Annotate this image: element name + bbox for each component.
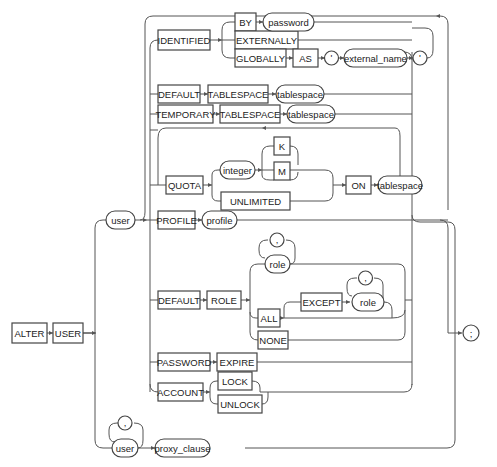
keyword-tablespace-2: TABLESPACE — [220, 105, 281, 123]
keyword-expire: EXPIRE — [217, 353, 257, 371]
svg-text:proxy_clause: proxy_clause — [155, 443, 211, 454]
svg-text:TEMPORARY: TEMPORARY — [155, 109, 216, 120]
keyword-unlock: UNLOCK — [218, 395, 262, 413]
variable-tablespace-default: tablespace — [276, 85, 324, 103]
svg-text:': ' — [331, 52, 333, 63]
svg-text:NONE: NONE — [259, 335, 286, 346]
svg-text:M: M — [278, 166, 286, 177]
svg-text:user: user — [116, 443, 134, 454]
svg-text:DEFAULT: DEFAULT — [158, 89, 200, 100]
keyword-user: USER — [53, 323, 83, 343]
variable-role-2: role — [352, 293, 384, 311]
variable-external-name: external_name — [344, 49, 407, 67]
keyword-password: PASSWORD — [157, 353, 212, 371]
variable-tablespace-temporary: tablespace — [287, 105, 335, 123]
svg-text:,: , — [124, 417, 127, 428]
svg-text:;: ; — [470, 328, 473, 339]
svg-text:ROLE: ROLE — [211, 295, 237, 306]
quote-close-symbol: ' — [413, 51, 427, 65]
svg-text:profile: profile — [207, 215, 233, 226]
alter-user-syntax-diagram: ALTER USER IDENTIFIED BY EXTERNALLY GLOB… — [0, 0, 497, 467]
variable-role-1: role — [265, 255, 290, 273]
svg-text:DEFAULT: DEFAULT — [158, 295, 200, 306]
keyword-except: EXCEPT — [301, 293, 342, 311]
comma-role-1-symbol: , — [270, 233, 284, 247]
svg-text:external_name: external_name — [344, 53, 407, 64]
svg-text:user: user — [111, 215, 129, 226]
svg-text:QUOTA: QUOTA — [168, 180, 202, 191]
svg-text:ALTER: ALTER — [15, 328, 45, 339]
svg-text:EXPIRE: EXPIRE — [220, 357, 255, 368]
keyword-default-role: DEFAULT — [158, 291, 200, 309]
variable-tablespace-quota: tablespace — [377, 176, 423, 194]
svg-text:PASSWORD: PASSWORD — [157, 357, 212, 368]
svg-text:password: password — [268, 17, 309, 28]
svg-text:role: role — [270, 259, 286, 270]
keyword-account: ACCOUNT — [157, 383, 204, 401]
svg-text:IDENTIFIED: IDENTIFIED — [158, 35, 211, 46]
comma-role-2-symbol: , — [359, 271, 373, 285]
keyword-none: NONE — [258, 331, 288, 349]
terminator-semicolon-symbol: ; — [463, 325, 479, 341]
svg-text:,: , — [364, 272, 367, 283]
keyword-k: K — [274, 137, 290, 155]
keyword-role: ROLE — [207, 291, 241, 309]
variable-integer: integer — [220, 161, 255, 179]
keyword-tablespace-1: TABLESPACE — [208, 85, 269, 103]
keyword-alter: ALTER — [12, 323, 47, 343]
variable-password: password — [263, 13, 314, 31]
keyword-globally: GLOBALLY — [235, 49, 286, 67]
keyword-on: ON — [346, 176, 371, 194]
svg-text:': ' — [419, 52, 421, 63]
svg-text:UNLOCK: UNLOCK — [220, 399, 260, 410]
svg-text:BY: BY — [239, 17, 252, 28]
keyword-as: AS — [293, 49, 318, 67]
keyword-identified: IDENTIFIED — [158, 30, 211, 50]
comma-user-symbol: , — [118, 416, 132, 430]
variable-proxy-clause: proxy_clause — [155, 439, 211, 457]
keyword-all: ALL — [258, 309, 280, 327]
svg-text:tablespace: tablespace — [377, 180, 423, 191]
variable-user-proxy: user — [112, 439, 138, 457]
keyword-lock: LOCK — [218, 372, 252, 390]
svg-text:GLOBALLY: GLOBALLY — [236, 53, 286, 64]
variable-profile: profile — [202, 211, 237, 229]
svg-text:K: K — [279, 141, 286, 152]
svg-text:TABLESPACE: TABLESPACE — [220, 109, 281, 120]
quote-open-symbol: ' — [325, 51, 339, 65]
svg-text:tablespace: tablespace — [277, 89, 323, 100]
svg-text:EXTERNALLY: EXTERNALLY — [236, 35, 298, 46]
keyword-default-tablespace: DEFAULT — [158, 85, 200, 103]
svg-text:EXCEPT: EXCEPT — [302, 297, 340, 308]
svg-text:ALL: ALL — [261, 313, 278, 324]
svg-text:ACCOUNT: ACCOUNT — [157, 387, 204, 398]
keyword-profile: PROFILE — [156, 211, 197, 229]
keyword-quota: QUOTA — [166, 176, 203, 194]
svg-text:role: role — [360, 297, 376, 308]
svg-text:PROFILE: PROFILE — [156, 215, 197, 226]
svg-text:ON: ON — [351, 180, 365, 191]
keyword-m: M — [274, 162, 290, 180]
variable-user: user — [106, 211, 135, 229]
svg-text:UNLIMITED: UNLIMITED — [230, 196, 281, 207]
keyword-temporary: TEMPORARY — [155, 105, 216, 123]
svg-text:AS: AS — [299, 53, 312, 64]
svg-text:,: , — [276, 234, 279, 245]
svg-text:USER: USER — [55, 328, 82, 339]
svg-text:tablespace: tablespace — [288, 109, 334, 120]
keyword-externally: EXTERNALLY — [235, 31, 298, 49]
keyword-unlimited: UNLIMITED — [221, 192, 290, 210]
svg-text:integer: integer — [223, 165, 252, 176]
svg-text:TABLESPACE: TABLESPACE — [208, 89, 269, 100]
keyword-by: BY — [235, 13, 256, 31]
svg-text:LOCK: LOCK — [222, 376, 249, 387]
